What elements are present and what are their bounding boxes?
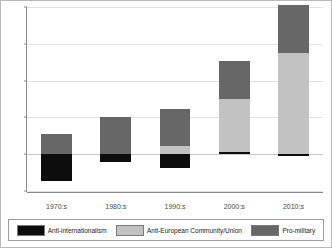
legend-swatch bbox=[116, 225, 144, 236]
x-axis-tick-label: 2010:s bbox=[283, 203, 304, 210]
chart-legend: Anti-internationalismAnti-European Commu… bbox=[8, 219, 324, 241]
bar-segment[interactable] bbox=[100, 154, 131, 161]
bar-group bbox=[160, 7, 191, 191]
bar-segment[interactable] bbox=[278, 154, 309, 156]
bar-segment[interactable] bbox=[219, 99, 250, 152]
bar-segment[interactable] bbox=[278, 5, 309, 53]
x-axis-tick-label: 1980:s bbox=[105, 203, 126, 210]
bar-segment[interactable] bbox=[160, 154, 191, 168]
legend-label: Pro-military bbox=[282, 227, 315, 234]
bar-segment[interactable] bbox=[100, 117, 131, 154]
x-axis-tick-label: 2000:s bbox=[224, 203, 245, 210]
bar-segment[interactable] bbox=[219, 152, 250, 154]
legend-label: Anti-internationalism bbox=[48, 227, 107, 234]
legend-swatch bbox=[251, 225, 279, 236]
bar-group bbox=[278, 7, 309, 191]
bar-segment[interactable] bbox=[278, 53, 309, 154]
bar-segment[interactable] bbox=[41, 154, 72, 181]
bar-group bbox=[41, 7, 72, 191]
x-axis-line bbox=[27, 192, 323, 193]
bar-group bbox=[219, 7, 250, 191]
bar-segment[interactable] bbox=[41, 134, 72, 154]
bar-segment[interactable] bbox=[160, 109, 191, 146]
plot-area: -2024681970:s1980:s1990:s2000:s2010:s bbox=[27, 7, 323, 191]
bar-group bbox=[100, 7, 131, 191]
y-axis-line bbox=[26, 7, 27, 192]
x-axis-tick-label: 1970:s bbox=[46, 203, 67, 210]
legend-label: Anti-European Community/Union bbox=[147, 227, 242, 234]
chart-figure: -2024681970:s1980:s1990:s2000:s2010:s An… bbox=[0, 0, 332, 248]
x-axis-tick-label: 1990:s bbox=[164, 203, 185, 210]
legend-item[interactable]: Pro-military bbox=[251, 225, 315, 236]
bar-segment[interactable] bbox=[160, 146, 191, 154]
bar-segment[interactable] bbox=[219, 61, 250, 99]
legend-item[interactable]: Anti-internationalism bbox=[17, 225, 107, 236]
legend-swatch bbox=[17, 225, 45, 236]
legend-item[interactable]: Anti-European Community/Union bbox=[116, 225, 242, 236]
